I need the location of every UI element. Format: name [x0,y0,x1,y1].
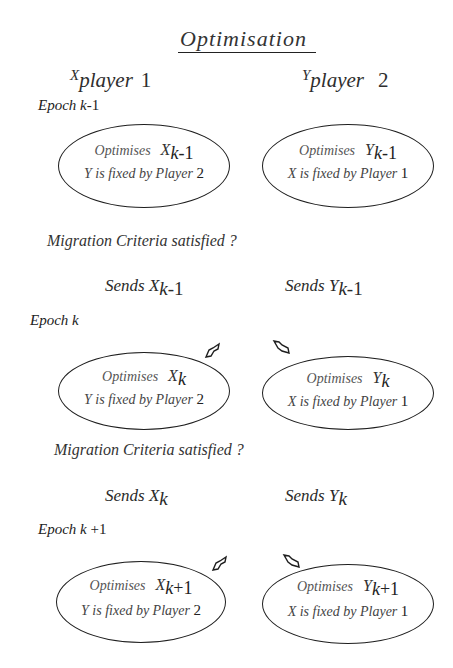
sends-x-k: Sends Xk [105,484,168,506]
epoch-var: k [80,97,87,113]
ellipse-player2-epoch-k: OptimisesYk X is fixed by Player 1 [262,356,434,430]
optimises-line: OptimisesYk+1 [263,575,433,596]
migration-criteria-question-1: Migration Criteria satisfied ? [47,232,237,250]
player-2-heading: Yplayer2 [302,68,389,93]
subscript-k: k [338,278,346,299]
sent-variable: X [149,486,159,505]
fixed-by-line: X is fixed by Player 1 [263,603,433,620]
fixed-by-player-number: 1 [401,165,409,181]
fixed-by-player-number: 1 [401,603,409,619]
diagram-title: Optimisation [180,26,307,52]
optimises-line: OptimisesXk+1 [57,574,225,595]
subscript-suffix: -1 [178,143,193,163]
epoch-var: k [80,521,87,537]
player-2-symbol: Y [302,67,310,83]
optimises-text: Optimises [102,369,158,384]
sends-y-k-minus-1: Sends Yk-1 [285,274,363,296]
epoch-prefix: Epoch [30,312,72,328]
sends-text: Sends [105,276,149,295]
fixed-by-player-number: 2 [196,165,204,181]
player-2-number: 2 [378,68,389,92]
sends-x-k-minus-1: Sends Xk-1 [105,274,184,296]
sent-variable: X [149,276,159,295]
optimises-text: Optimises [299,143,355,158]
subscript-k: k [159,278,167,299]
fixed-by-text: X is fixed by Player [288,394,401,409]
sends-text: Sends [285,486,329,505]
migration-arrow-icon [203,340,223,360]
fixed-by-line: Y is fixed by Player 2 [59,391,229,408]
optimised-variable: X [168,367,178,384]
fixed-by-player-number: 2 [193,602,201,618]
fixed-by-line: X is fixed by Player 1 [263,165,433,182]
player-1-number: 1 [141,68,152,92]
epoch-prefix: Epoch [38,97,80,113]
sends-y-k: Sends Yk [285,484,347,506]
subscript-suffix: +1 [173,578,192,598]
ellipse-player1-epoch-k-minus-1: OptimisesXk-1 Y is fixed by Player 2 [58,124,230,208]
optimises-line: OptimisesYk [263,367,433,388]
sends-text: Sends [105,486,149,505]
subscript-suffix: -1 [382,143,397,163]
subscript-suffix: -1 [168,278,184,299]
fixed-by-line: Y is fixed by Player 2 [57,602,225,619]
ellipse-player2-epoch-k-plus-1: OptimisesYk+1 X is fixed by Player 1 [262,564,434,644]
optimised-variable: X [156,576,166,593]
fixed-by-text: X is fixed by Player [288,166,401,181]
subscript-suffix: -1 [347,278,363,299]
migration-arrow-icon [282,550,302,570]
epoch-suffix: -1 [87,97,100,113]
migration-arrow-icon [272,336,292,356]
fixed-by-player-number: 2 [196,391,204,407]
title-underline [178,52,316,53]
sent-variable: Y [329,276,338,295]
player-1-symbol: X [70,67,79,83]
epoch-label-k-minus-1: Epoch k-1 [38,97,99,114]
optimises-line: OptimisesXk [59,365,229,386]
epoch-var: k [72,312,79,328]
optimises-line: OptimisesYk-1 [263,139,433,160]
fixed-by-line: Y is fixed by Player 2 [59,165,229,182]
optimised-variable: Y [365,141,374,158]
player-1-word: player [79,68,133,92]
epoch-label-k: Epoch k [30,312,79,329]
epoch-label-k-plus-1: Epoch k +1 [38,521,106,538]
optimised-variable: Y [363,577,372,594]
migration-arrow-icon [210,553,230,573]
subscript-k: k [159,488,167,509]
fixed-by-text: X is fixed by Player [288,604,401,619]
optimises-text: Optimises [307,371,363,386]
fixed-by-text: Y is fixed by Player [81,603,193,618]
optimises-text: Optimises [95,143,151,158]
sent-variable: Y [329,486,338,505]
subscript-k: k [178,369,186,389]
optimises-text: Optimises [297,579,353,594]
fixed-by-player-number: 1 [401,393,409,409]
subscript-k: k [374,143,382,163]
fixed-by-line: X is fixed by Player 1 [263,393,433,410]
optimised-variable: X [161,141,171,158]
subscript-suffix: +1 [380,579,399,599]
optimises-text: Optimises [90,578,146,593]
fixed-by-text: Y is fixed by Player [84,166,196,181]
sends-text: Sends [285,276,329,295]
migration-criteria-question-2: Migration Criteria satisfied ? [54,441,244,459]
epoch-prefix: Epoch [38,521,80,537]
ellipse-player1-epoch-k-plus-1: OptimisesXk+1 Y is fixed by Player 2 [56,561,226,643]
subscript-k: k [338,488,346,509]
subscript-k: k [372,579,380,599]
ellipse-player2-epoch-k-minus-1: OptimisesYk-1 X is fixed by Player 1 [262,124,434,208]
epoch-suffix: +1 [87,521,107,537]
fixed-by-text: Y is fixed by Player [84,392,196,407]
player-1-heading: Xplayer1 [70,68,151,93]
subscript-k: k [381,371,389,391]
ellipse-player1-epoch-k: OptimisesXk Y is fixed by Player 2 [58,352,230,430]
player-2-word: player [310,68,364,92]
optimises-line: OptimisesXk-1 [59,139,229,160]
